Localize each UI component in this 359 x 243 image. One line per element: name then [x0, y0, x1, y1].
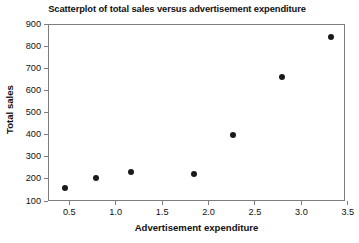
x-tick-mark: [254, 201, 255, 205]
y-tick-label: 200: [26, 172, 41, 185]
data-point: [279, 74, 285, 80]
x-tick-mark: [115, 201, 116, 205]
y-tick-label: 300: [26, 150, 41, 163]
x-tick-mark: [69, 201, 70, 205]
y-tick-label: 400: [26, 128, 41, 141]
data-point: [128, 169, 134, 175]
x-tick-label: 1.5: [142, 206, 182, 218]
y-tick-label: 900: [26, 18, 41, 31]
x-tick-label: 3.5: [328, 206, 359, 218]
x-tick-label: 0.5: [49, 206, 89, 218]
data-point: [191, 171, 197, 177]
x-tick-label: 2.0: [189, 206, 229, 218]
y-axis-label: Total sales: [4, 65, 15, 155]
x-axis-label: Advertisement expenditure: [48, 222, 345, 233]
data-point: [230, 132, 236, 138]
y-tick-label: 500: [26, 106, 41, 119]
y-tick-label: 600: [26, 84, 41, 97]
x-tick-mark: [208, 201, 209, 205]
x-tick-label: 3.0: [281, 206, 321, 218]
x-tick-mark: [162, 201, 163, 205]
x-tick-mark: [301, 201, 302, 205]
data-point: [62, 185, 68, 191]
data-point: [328, 34, 334, 40]
x-tick-label: 2.5: [235, 206, 275, 218]
x-tick-mark: [347, 201, 348, 205]
y-tick-label: 700: [26, 62, 41, 75]
x-tick-label: 1.0: [96, 206, 136, 218]
plot-area: [48, 24, 345, 201]
data-points-layer: [49, 25, 344, 200]
chart-title: Scatterplot of total sales versus advert…: [0, 3, 354, 14]
y-tick-label: 100: [26, 195, 41, 208]
y-tick-label: 800: [26, 40, 41, 53]
data-point: [93, 175, 99, 181]
